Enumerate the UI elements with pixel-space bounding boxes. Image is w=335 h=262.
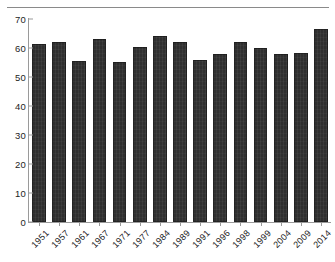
x-axis-tick-label: 1971: [110, 228, 132, 250]
x-axis-tick-mark: [180, 222, 181, 226]
y-axis-tick: 10: [15, 188, 29, 199]
x-axis-tick-mark: [79, 222, 80, 226]
y-axis-tick: 60: [15, 43, 29, 54]
bar: [93, 39, 107, 222]
x-axis-tick-label: 1977: [130, 228, 152, 250]
x-axis-tick-mark: [281, 222, 282, 226]
x-axis-tick-label: 1996: [211, 228, 233, 250]
y-axis-tick: 70: [15, 14, 29, 25]
header-divider: [7, 7, 329, 8]
y-axis-tick-label: 50: [15, 72, 26, 83]
y-axis-tick-mark: [29, 19, 33, 20]
y-axis-tick-label: 70: [15, 14, 26, 25]
x-axis-tick-label: 1967: [90, 228, 112, 250]
x-axis-tick-mark: [321, 222, 322, 226]
bar: [153, 36, 167, 222]
x-axis-tick-mark: [200, 222, 201, 226]
x-axis-tick-mark: [99, 222, 100, 226]
plot-area: 010203040506070: [29, 19, 331, 222]
y-axis-tick-label: 0: [21, 217, 26, 228]
x-axis-tick-label: 2009: [291, 228, 313, 250]
bar: [133, 47, 147, 222]
x-axis-tick-mark: [220, 222, 221, 226]
y-axis-tick: 30: [15, 130, 29, 141]
bar: [173, 42, 187, 222]
x-axis-tick-label: 1991: [190, 228, 212, 250]
x-axis-tick-mark: [240, 222, 241, 226]
bar: [274, 54, 288, 222]
y-axis-tick-mark: [29, 193, 33, 194]
y-axis-tick-label: 10: [15, 188, 26, 199]
y-axis-tick-label: 30: [15, 130, 26, 141]
y-axis-tick: 40: [15, 101, 29, 112]
bar: [113, 62, 127, 222]
x-axis-tick-mark: [140, 222, 141, 226]
x-axis-tick-label: 1951: [29, 228, 51, 250]
x-axis-tick-label: 2014: [311, 228, 333, 250]
y-axis-tick-label: 20: [15, 159, 26, 170]
bar: [32, 44, 46, 222]
y-axis-tick-mark: [29, 106, 33, 107]
y-axis-tick-label: 40: [15, 101, 26, 112]
bar: [234, 42, 248, 222]
x-axis-tick-mark: [261, 222, 262, 226]
x-axis-tick-mark: [120, 222, 121, 226]
y-axis-tick: 0: [21, 217, 29, 228]
x-axis-tick-label: 2004: [271, 228, 293, 250]
x-axis-tick-label: 1984: [150, 228, 172, 250]
y-axis-tick-mark: [29, 222, 33, 223]
x-axis-tick-label: 1999: [251, 228, 273, 250]
y-axis-tick-mark: [29, 48, 33, 49]
bar: [193, 60, 207, 222]
bar: [213, 54, 227, 222]
x-axis-tick-mark: [59, 222, 60, 226]
x-axis-tick-mark: [301, 222, 302, 226]
bar: [72, 61, 86, 222]
bar: [52, 42, 66, 222]
x-axis-tick-mark: [160, 222, 161, 226]
y-axis-tick: 50: [15, 72, 29, 83]
x-axis-tick-label: 1998: [231, 228, 253, 250]
y-axis-tick-mark: [29, 164, 33, 165]
x-axis-tick-mark: [39, 222, 40, 226]
y-axis-tick: 20: [15, 159, 29, 170]
bar-chart-figure: 010203040506070 195119571961196719711977…: [0, 0, 335, 262]
bar: [254, 48, 268, 222]
bar: [314, 29, 328, 222]
y-axis-tick-mark: [29, 135, 33, 136]
y-axis-tick-label: 60: [15, 43, 26, 54]
x-axis-labels: 1951195719611967197119771984198919911996…: [29, 228, 331, 262]
x-axis-tick-label: 1957: [49, 228, 71, 250]
x-axis-tick-label: 1989: [170, 228, 192, 250]
bar: [294, 53, 308, 222]
y-axis-tick-mark: [29, 77, 33, 78]
bar-series: [29, 19, 331, 222]
x-axis-tick-label: 1961: [70, 228, 92, 250]
